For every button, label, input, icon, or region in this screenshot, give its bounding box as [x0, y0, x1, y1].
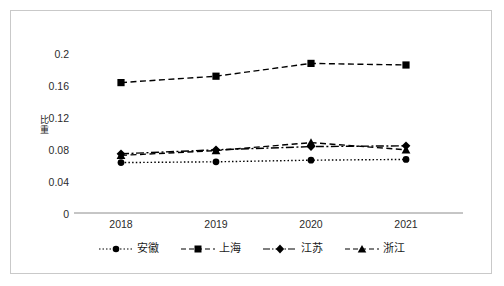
series-2 [117, 141, 411, 158]
series-line [121, 143, 406, 156]
series-line [121, 63, 406, 82]
data-point [212, 73, 219, 80]
legend-marker-diamond [263, 241, 297, 253]
data-point [118, 159, 125, 166]
legend-marker-circle [99, 241, 133, 253]
legend-marker-triangle [345, 241, 379, 253]
data-point [402, 61, 409, 68]
series-0 [118, 156, 410, 166]
data-point [307, 60, 314, 67]
chart-legend: 安徽 上海 江苏 [11, 239, 493, 255]
legend-label-zhejiang: 浙江 [383, 239, 405, 255]
legend-label-jiangsu: 江苏 [301, 239, 323, 255]
chart-container: 比重 0 0.04 0.08 0.12 0.16 0.2 2018 2019 2… [10, 10, 492, 274]
data-point [308, 157, 315, 164]
data-point [403, 156, 410, 163]
series-line [121, 159, 406, 162]
series-layer [117, 60, 411, 166]
plot-area: 比重 0 0.04 0.08 0.12 0.16 0.2 2018 2019 2… [11, 11, 493, 275]
series-1 [117, 60, 409, 86]
legend-item-jiangsu[interactable]: 江苏 [263, 239, 323, 255]
legend-item-anhui[interactable]: 安徽 [99, 239, 159, 255]
data-point [213, 158, 220, 165]
legend-label-shanghai: 上海 [219, 239, 241, 255]
legend-item-zhejiang[interactable]: 浙江 [345, 239, 405, 255]
legend-marker-square [181, 241, 215, 253]
data-point [117, 79, 124, 86]
legend-item-shanghai[interactable]: 上海 [181, 239, 241, 255]
legend-label-anhui: 安徽 [137, 239, 159, 255]
chart-svg [11, 11, 493, 275]
